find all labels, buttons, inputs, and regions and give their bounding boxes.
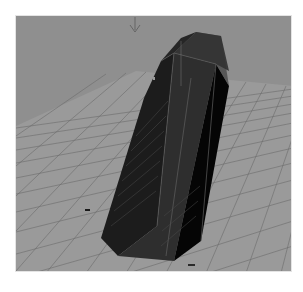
move-arrow-icon[interactable] [130, 17, 140, 32]
viewport-label-marker [188, 264, 195, 266]
scene-canvas[interactable] [16, 16, 292, 272]
axis-marker-icon [85, 209, 90, 211]
cursor-marker [153, 77, 155, 80]
3d-viewport[interactable] [15, 15, 292, 272]
